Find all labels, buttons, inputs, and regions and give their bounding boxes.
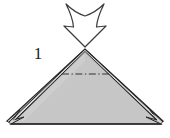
figure-canvas	[0, 0, 170, 138]
fold-direction-arrow	[64, 4, 106, 47]
origami-figure: 1	[0, 0, 170, 138]
step-number-label: 1	[28, 43, 48, 65]
arrow-shape	[64, 4, 106, 47]
